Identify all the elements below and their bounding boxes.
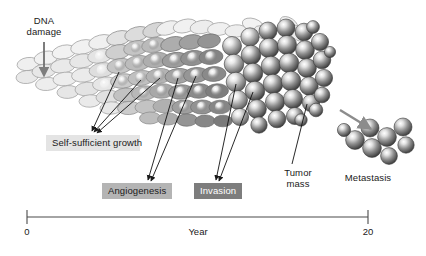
axis-title: Year (173, 226, 223, 237)
figure-canvas (0, 0, 426, 256)
axis-tick-label-start: 0 (17, 226, 37, 237)
invasion-label: Invasion (194, 183, 242, 199)
metastasis-label: Metastasis (336, 173, 400, 184)
tumor-mass-label: Tumor mass (274, 168, 322, 189)
axis-tick-label-end: 20 (356, 226, 380, 237)
tumor-progression-figure: DNA damage Self-sufficient growth Angiog… (0, 0, 426, 256)
year-axis (27, 210, 368, 224)
dna-damage-label: DNA damage (18, 16, 70, 37)
angiogenesis-label: Angiogenesis (102, 183, 172, 199)
self-sufficient-growth-label: Self-sufficient growth (46, 135, 140, 151)
metastasis-cluster (337, 118, 414, 164)
